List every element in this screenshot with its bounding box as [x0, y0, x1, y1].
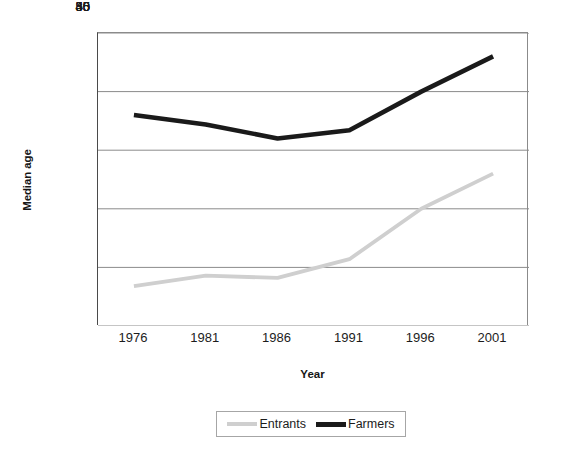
series-lines	[134, 56, 493, 286]
y-tick-label: 30	[56, 0, 90, 13]
legend-label: Farmers	[348, 418, 395, 431]
plot-svg	[98, 33, 529, 326]
x-axis-tick-labels: 1976 1981 1986 1991 1996 2001	[97, 331, 528, 353]
x-tick-label: 1986	[241, 331, 313, 353]
x-tick-label: 2001	[456, 331, 528, 353]
x-tick-label: 1996	[384, 331, 456, 353]
x-tick-label: 1991	[312, 331, 384, 353]
y-axis-title: Median age	[22, 120, 34, 240]
y-axis-tick-labels: 55 50 45 40 35 30	[52, 0, 90, 463]
legend-entry-farmers: Farmers	[316, 418, 395, 431]
x-tick-label: 1981	[169, 331, 241, 353]
chart-legend: Entrants Farmers	[216, 411, 406, 437]
x-tick-label: 1976	[97, 331, 169, 353]
series-line-farmers	[134, 56, 493, 138]
plot-area	[97, 32, 528, 325]
median-age-line-chart: Median age 55 50 45 40 35 30 1976 1981 1…	[0, 0, 562, 463]
legend-color-swatch	[316, 422, 346, 427]
x-axis-title: Year	[97, 368, 528, 380]
series-line-entrants	[134, 174, 493, 287]
legend-entry-entrants: Entrants	[227, 418, 306, 431]
legend-color-swatch	[227, 422, 257, 426]
legend-label: Entrants	[259, 418, 306, 431]
